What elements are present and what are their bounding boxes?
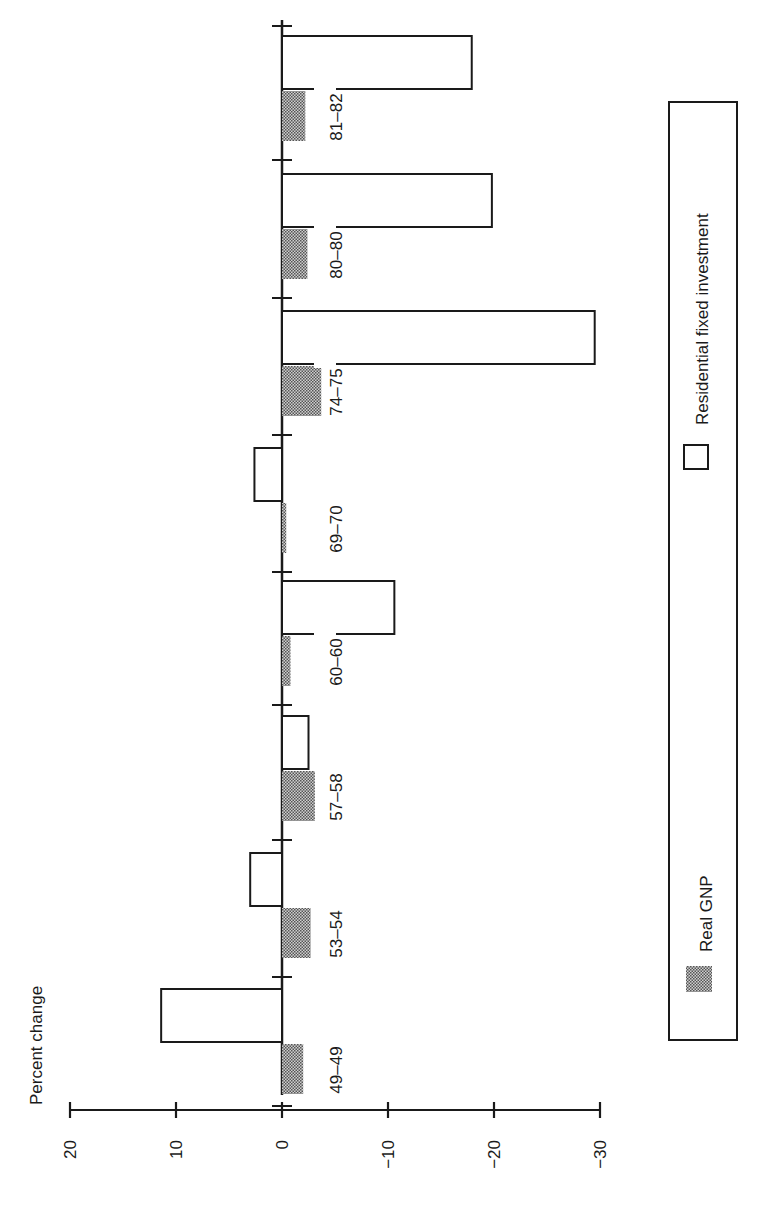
bar-group: 80–80: [282, 174, 492, 279]
label-gap: [314, 85, 336, 93]
label-gap: [314, 360, 336, 368]
axis-tick-label: −10: [379, 1140, 398, 1169]
residential-bar: [161, 989, 282, 1042]
bar-chart: 20100−10−20−30 Percent change 49–4953–54…: [0, 0, 757, 1221]
axis-tick-label: 20: [61, 1140, 80, 1159]
real-gnp-bar: [282, 229, 307, 279]
category-label: 49–49: [327, 1046, 346, 1093]
category-label: 80–80: [327, 231, 346, 278]
category-label: 53–54: [327, 910, 346, 957]
legend-label-real-gnp: Real GNP: [697, 875, 716, 952]
real-gnp-bar: [282, 366, 321, 416]
label-gap: [314, 223, 336, 231]
residential-bar: [282, 716, 309, 769]
bar-groups: 49–4953–5457–5860–6069–7074–7580–8081–82: [161, 20, 595, 1106]
residential-bar: [282, 174, 492, 227]
category-label: 57–58: [327, 773, 346, 820]
axis-tick-label: −30: [591, 1140, 610, 1169]
real-gnp-bar: [282, 636, 290, 686]
label-gap: [314, 630, 336, 638]
bar-group: 81–82: [282, 36, 472, 141]
residential-bar: [254, 448, 282, 501]
category-label: 81–82: [327, 93, 346, 140]
axis-tick-label: 0: [273, 1140, 292, 1149]
bar-group: 60–60: [282, 581, 394, 686]
axis-tick-label: −20: [485, 1140, 504, 1169]
real-gnp-swatch-icon: [686, 966, 712, 992]
category-label: 60–60: [327, 638, 346, 685]
residential-bar: [250, 853, 282, 906]
bar-group: 74–75: [282, 311, 595, 416]
category-label: 69–70: [327, 505, 346, 552]
bar-group: 57–58: [282, 716, 346, 821]
residential-bar: [282, 311, 595, 364]
axis-tick-label: 10: [167, 1140, 186, 1159]
legend: Real GNP Residential fixed investment: [669, 102, 737, 1040]
real-gnp-bar: [282, 908, 311, 958]
residential-bar: [282, 36, 472, 89]
value-axis: 20100−10−20−30: [61, 1102, 610, 1169]
category-label: 74–75: [327, 368, 346, 415]
axis-title: Percent change: [27, 986, 46, 1105]
bar-group: 69–70: [254, 448, 346, 553]
real-gnp-bar: [282, 503, 286, 553]
residential-swatch-icon: [684, 445, 708, 469]
bar-group: 53–54: [250, 853, 346, 958]
legend-label-residential: Residential fixed investment: [693, 213, 712, 425]
residential-bar: [282, 581, 394, 634]
real-gnp-bar: [282, 1044, 303, 1094]
real-gnp-bar: [282, 771, 315, 821]
real-gnp-bar: [282, 91, 305, 141]
bar-group: 49–49: [161, 989, 346, 1094]
